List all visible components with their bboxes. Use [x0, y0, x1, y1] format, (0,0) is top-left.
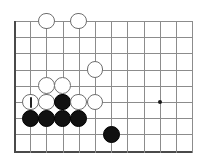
stone-white[interactable] [54, 77, 71, 94]
stone-white[interactable] [87, 94, 104, 111]
go-board-diagram [0, 0, 209, 167]
stone-black[interactable] [54, 94, 71, 111]
grid-line-horizontal [14, 53, 192, 54]
grid-line-vertical [144, 21, 145, 153]
grid-line-horizontal [14, 70, 192, 71]
grid-line-horizontal [14, 37, 192, 38]
stone-white[interactable] [87, 61, 104, 78]
star-point [158, 100, 162, 104]
stone-white[interactable] [70, 13, 87, 30]
stone-white[interactable] [70, 94, 87, 111]
go-board-surface[interactable] [0, 0, 209, 167]
board-bottom-edge [14, 151, 192, 153]
grid-line-vertical [160, 21, 161, 153]
grid-line-vertical [176, 21, 177, 153]
stone-white-marked[interactable] [22, 94, 39, 111]
grid-line-vertical [127, 21, 128, 153]
move-number-marker-icon [30, 97, 31, 108]
board-left-edge [14, 21, 16, 153]
stone-black[interactable] [54, 110, 71, 127]
stone-white[interactable] [38, 94, 55, 111]
stone-black[interactable] [22, 110, 39, 127]
grid-line-vertical [79, 21, 80, 153]
grid-line-vertical [95, 21, 96, 153]
stone-black[interactable] [70, 110, 87, 127]
stone-black[interactable] [38, 110, 55, 127]
grid-line-vertical [30, 21, 31, 153]
stone-white[interactable] [38, 77, 55, 94]
stone-white[interactable] [38, 13, 55, 30]
stone-black[interactable] [103, 126, 120, 143]
grid-line-vertical [192, 21, 193, 153]
